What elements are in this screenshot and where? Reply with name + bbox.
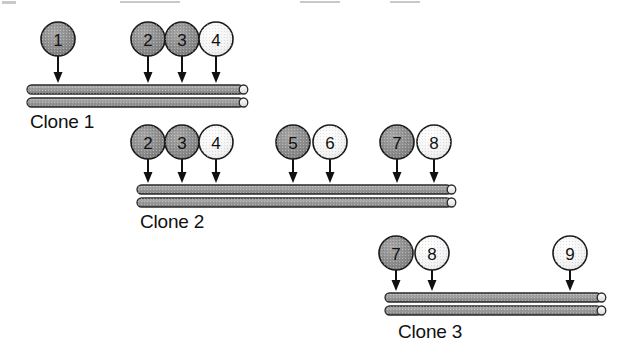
clone-bar-strand (385, 306, 606, 315)
clone-1-marker-2-arrow-head (144, 72, 153, 83)
clone-1-marker-3[interactable]: 3 (165, 22, 199, 56)
clone-2-strand-2-end-cap (447, 198, 456, 207)
clone-2-marker-5[interactable]: 5 (276, 125, 310, 159)
clone-bar-strand (27, 98, 248, 107)
clone-bar-strand (137, 185, 456, 194)
clone-2-marker-7-arrow-head (393, 172, 402, 183)
clone-1-strand-2-texture (27, 98, 244, 107)
clone-3-marker-9[interactable]: 9 (553, 236, 587, 270)
clone-2-marker-7-number: 7 (392, 134, 401, 153)
clone-1-marker-2-number: 2 (143, 31, 152, 50)
markers-layer: 12342345678789 (41, 22, 587, 291)
clone-2-marker-5-number: 5 (288, 134, 297, 153)
clone-3-strand-1-end-cap (597, 293, 606, 302)
clone-2-marker-6-number: 6 (325, 134, 334, 153)
clone-3-marker-8-number: 8 (427, 245, 436, 264)
clone-2-marker-3-number: 3 (177, 134, 186, 153)
clone-1-marker-3-arrow-head (178, 72, 187, 83)
clone-3-label: Clone 3 (398, 321, 462, 342)
clone-3-marker-7-arrow (392, 270, 401, 291)
clone-2-marker-8-arrow-head (430, 172, 439, 183)
clone-1-strand-1-end-cap (239, 85, 248, 94)
clone-1-marker-2-arrow (144, 56, 153, 83)
top-edge-speck (2, 1, 16, 4)
clone-bar-strand (137, 198, 456, 207)
clone-3-marker-8[interactable]: 8 (415, 236, 449, 270)
clone-3-strand-2-end-cap (597, 306, 606, 315)
clone-3-strand-2-texture (385, 306, 602, 315)
clone-1-marker-1-arrow-head (54, 72, 63, 83)
clone-2-marker-7[interactable]: 7 (380, 125, 414, 159)
clone-2-marker-8-number: 8 (429, 134, 438, 153)
clone-3-strand-1-texture (385, 293, 602, 302)
clone-2-strand-2-texture (137, 198, 452, 207)
clone-2-marker-6-arrow (326, 159, 335, 183)
clone-2-strand-1-texture (137, 185, 452, 194)
clone-1-marker-1-number: 1 (53, 31, 62, 50)
clone-3-marker-8-arrow-head (428, 280, 437, 291)
clone-1-marker-4[interactable]: 4 (199, 22, 233, 56)
clone-1-label: Clone 1 (30, 111, 94, 132)
clone-1-marker-4-number: 4 (211, 31, 220, 50)
clone-1-marker-1[interactable]: 1 (41, 22, 75, 56)
clone-1-marker-3-arrow (178, 56, 187, 83)
clone-2-marker-2-arrow-head (144, 172, 153, 183)
clone-2-marker-5-arrow (289, 159, 298, 183)
clone-2-marker-3-arrow-head (178, 172, 187, 183)
clone-3-marker-7-arrow-head (392, 280, 401, 291)
clone-bars-layer (27, 85, 606, 315)
clone-2-marker-7-arrow (393, 159, 402, 183)
clone-2-marker-5-arrow-head (289, 172, 298, 183)
clone-2-label: Clone 2 (140, 211, 204, 232)
clone-2-marker-2-arrow (144, 159, 153, 183)
clone-2-marker-2[interactable]: 2 (131, 125, 165, 159)
clone-2-marker-4-arrow (212, 159, 221, 183)
clone-3-marker-9-arrow-head (566, 280, 575, 291)
clone-2-marker-8-arrow (430, 159, 439, 183)
top-edge-speck (120, 1, 180, 3)
clone-2-marker-6[interactable]: 6 (313, 125, 347, 159)
top-edge-speck (300, 1, 340, 3)
clone-2-marker-3[interactable]: 3 (165, 125, 199, 159)
clone-1-marker-1-arrow (54, 56, 63, 83)
clone-1-marker-4-arrow (212, 56, 221, 83)
clone-2-marker-4[interactable]: 4 (199, 125, 233, 159)
diagram-canvas: 12342345678789 Clone 1Clone 2Clone 3 (0, 0, 622, 357)
clone-1-marker-4-arrow-head (212, 72, 221, 83)
clone-contig-diagram: 12342345678789 Clone 1Clone 2Clone 3 (0, 0, 622, 357)
clone-1-marker-3-number: 3 (177, 31, 186, 50)
clone-bar-strand (385, 293, 606, 302)
top-edge-artifacts (2, 1, 420, 4)
clone-3-marker-7[interactable]: 7 (379, 236, 413, 270)
clone-bar-strand (27, 85, 248, 94)
clone-3-marker-8-arrow (428, 270, 437, 291)
clone-3-marker-9-arrow (566, 270, 575, 291)
clone-2-marker-4-arrow-head (212, 172, 221, 183)
clone-2-marker-6-arrow-head (326, 172, 335, 183)
clone-3-marker-7-number: 7 (391, 245, 400, 264)
clone-2-marker-8[interactable]: 8 (417, 125, 451, 159)
clone-2-marker-4-number: 4 (211, 134, 220, 153)
clone-1-strand-2-end-cap (239, 98, 248, 107)
clone-1-strand-1-texture (27, 85, 244, 94)
clone-3-marker-9-number: 9 (565, 245, 574, 264)
clone-2-marker-3-arrow (178, 159, 187, 183)
clone-2-marker-2-number: 2 (143, 134, 152, 153)
clone-1-marker-2[interactable]: 2 (131, 22, 165, 56)
top-edge-speck (390, 1, 420, 3)
clone-2-strand-1-end-cap (447, 185, 456, 194)
